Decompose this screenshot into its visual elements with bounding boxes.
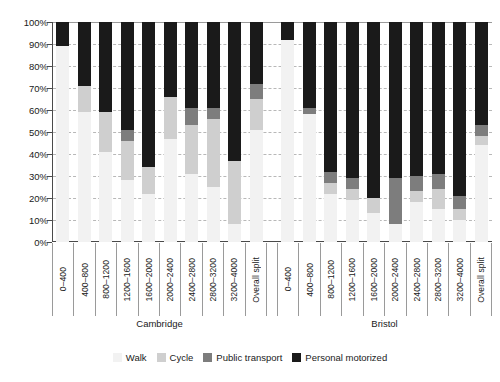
y-axis-tick-label: 10% bbox=[4, 215, 48, 226]
bar-segment-walk[interactable] bbox=[432, 209, 445, 242]
bar-segment-public-transport[interactable] bbox=[303, 108, 316, 115]
bar-segment-walk[interactable] bbox=[78, 112, 91, 242]
bar-segment-personal-motorized[interactable] bbox=[303, 22, 316, 108]
bar-segment-walk[interactable] bbox=[207, 187, 220, 242]
bar-segment-walk[interactable] bbox=[324, 194, 337, 242]
bar-segment-walk[interactable] bbox=[185, 174, 198, 242]
bar-segment-personal-motorized[interactable] bbox=[346, 22, 359, 178]
bar-segment-public-transport[interactable] bbox=[389, 178, 402, 224]
bar-segment-personal-motorized[interactable] bbox=[121, 22, 134, 130]
stacked-bar[interactable] bbox=[228, 22, 241, 242]
bar-segment-walk[interactable] bbox=[99, 152, 112, 242]
stacked-bar[interactable] bbox=[250, 22, 263, 242]
bar-segment-cycle[interactable] bbox=[185, 125, 198, 173]
bar-segment-cycle[interactable] bbox=[453, 209, 466, 220]
bar-segment-public-transport[interactable] bbox=[432, 174, 445, 189]
bar-segment-cycle[interactable] bbox=[228, 161, 241, 225]
bar-segment-walk[interactable] bbox=[346, 200, 359, 242]
bar-segment-walk[interactable] bbox=[303, 114, 316, 242]
stacked-bar[interactable] bbox=[121, 22, 134, 242]
category-label: 0–400 bbox=[58, 267, 68, 291]
bar-segment-walk[interactable] bbox=[389, 224, 402, 242]
bar-segment-personal-motorized[interactable] bbox=[56, 22, 69, 46]
bar-segment-walk[interactable] bbox=[250, 130, 263, 242]
category-label: 2400–2800 bbox=[187, 258, 197, 301]
bar-segment-personal-motorized[interactable] bbox=[367, 22, 380, 198]
bar-segment-public-transport[interactable] bbox=[207, 108, 220, 119]
stacked-bar[interactable] bbox=[389, 22, 402, 242]
stacked-bar[interactable] bbox=[346, 22, 359, 242]
bar-segment-personal-motorized[interactable] bbox=[207, 22, 220, 108]
bar-segment-cycle[interactable] bbox=[207, 119, 220, 187]
bar-segment-cycle[interactable] bbox=[142, 167, 155, 193]
legend-item-cycle[interactable]: Cycle bbox=[157, 352, 194, 363]
bar-segment-cycle[interactable] bbox=[78, 86, 91, 112]
y-axis-tick-label: 50% bbox=[4, 127, 48, 138]
bar-segment-cycle[interactable] bbox=[367, 198, 380, 213]
legend-item-personal-motorized[interactable]: Personal motorized bbox=[292, 352, 387, 363]
stacked-bar[interactable] bbox=[185, 22, 198, 242]
bar-segment-public-transport[interactable] bbox=[346, 178, 359, 189]
bar-segment-cycle[interactable] bbox=[250, 99, 263, 130]
bar-segment-walk[interactable] bbox=[475, 145, 488, 242]
bar-segment-walk[interactable] bbox=[281, 40, 294, 242]
bar-segment-walk[interactable] bbox=[121, 180, 134, 242]
stacked-bar[interactable] bbox=[281, 22, 294, 242]
y-axis-tick-label: 0% bbox=[4, 237, 48, 248]
stacked-bar[interactable] bbox=[324, 22, 337, 242]
bar-segment-cycle[interactable] bbox=[432, 189, 445, 209]
bar-segment-walk[interactable] bbox=[453, 220, 466, 242]
bar-segment-cycle[interactable] bbox=[324, 183, 337, 194]
bar-segment-walk[interactable] bbox=[228, 224, 241, 242]
bar-segment-personal-motorized[interactable] bbox=[324, 22, 337, 172]
bar-segment-cycle[interactable] bbox=[475, 136, 488, 145]
bar-segment-walk[interactable] bbox=[56, 46, 69, 242]
bar-segment-public-transport[interactable] bbox=[324, 172, 337, 183]
bar-segment-walk[interactable] bbox=[367, 213, 380, 242]
bar-segment-personal-motorized[interactable] bbox=[185, 22, 198, 108]
bar-segment-personal-motorized[interactable] bbox=[281, 22, 294, 40]
category-label: Overall split bbox=[251, 257, 261, 303]
bar-segment-personal-motorized[interactable] bbox=[453, 22, 466, 196]
category-tick: 2800–3200 bbox=[428, 243, 449, 316]
legend-item-public-transport[interactable]: Public transport bbox=[203, 352, 282, 363]
legend-item-walk[interactable]: Walk bbox=[113, 352, 147, 363]
stacked-bar[interactable] bbox=[410, 22, 423, 242]
stacked-bar[interactable] bbox=[142, 22, 155, 242]
bar-segment-walk[interactable] bbox=[142, 194, 155, 242]
bar-segment-cycle[interactable] bbox=[121, 141, 134, 181]
bar-slot bbox=[74, 22, 96, 242]
bar-segment-walk[interactable] bbox=[410, 202, 423, 242]
bar-segment-cycle[interactable] bbox=[99, 112, 112, 152]
bar-segment-personal-motorized[interactable] bbox=[99, 22, 112, 112]
bar-segment-walk[interactable] bbox=[164, 139, 177, 242]
bar-segment-personal-motorized[interactable] bbox=[432, 22, 445, 174]
bar-segment-personal-motorized[interactable] bbox=[250, 22, 263, 84]
bar-segment-personal-motorized[interactable] bbox=[475, 22, 488, 125]
bar-segment-public-transport[interactable] bbox=[475, 125, 488, 136]
bar-segment-personal-motorized[interactable] bbox=[142, 22, 155, 167]
stacked-bar[interactable] bbox=[475, 22, 488, 242]
stacked-bar[interactable] bbox=[367, 22, 380, 242]
bar-segment-cycle[interactable] bbox=[346, 189, 359, 200]
bar-segment-cycle[interactable] bbox=[410, 191, 423, 202]
bar-segment-public-transport[interactable] bbox=[453, 196, 466, 209]
stacked-bar[interactable] bbox=[207, 22, 220, 242]
bar-segment-personal-motorized[interactable] bbox=[78, 22, 91, 86]
stacked-bar[interactable] bbox=[164, 22, 177, 242]
bar-segment-cycle[interactable] bbox=[164, 97, 177, 139]
bar-segment-public-transport[interactable] bbox=[121, 130, 134, 141]
stacked-bar[interactable] bbox=[453, 22, 466, 242]
stacked-bar[interactable] bbox=[56, 22, 69, 242]
bar-segment-personal-motorized[interactable] bbox=[228, 22, 241, 161]
stacked-bar[interactable] bbox=[432, 22, 445, 242]
stacked-bar[interactable] bbox=[99, 22, 112, 242]
stacked-bar[interactable] bbox=[303, 22, 316, 242]
stacked-bar[interactable] bbox=[78, 22, 91, 242]
bar-segment-public-transport[interactable] bbox=[410, 176, 423, 191]
bar-segment-personal-motorized[interactable] bbox=[410, 22, 423, 176]
bar-segment-public-transport[interactable] bbox=[185, 108, 198, 126]
bar-segment-public-transport[interactable] bbox=[250, 84, 263, 99]
bar-segment-personal-motorized[interactable] bbox=[389, 22, 402, 178]
bar-segment-personal-motorized[interactable] bbox=[164, 22, 177, 97]
